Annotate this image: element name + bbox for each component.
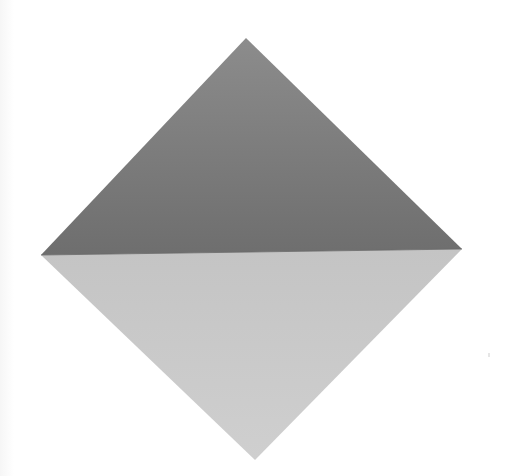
folded-square-diagram <box>0 0 507 476</box>
diagram-canvas <box>0 0 507 476</box>
upper-triangle-colored-side <box>41 38 462 255</box>
stray-speck <box>488 353 490 357</box>
lower-triangle-white-side <box>41 249 462 460</box>
